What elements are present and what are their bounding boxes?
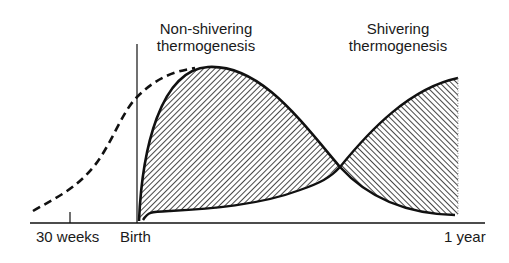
tick-label-1-year: 1 year xyxy=(444,228,486,245)
non-shivering-area xyxy=(139,67,340,221)
label-non-shivering-line2: thermogenesis xyxy=(157,37,255,54)
tick-label-birth: Birth xyxy=(120,228,151,245)
label-shivering-line1: Shivering xyxy=(367,20,430,37)
label-non-shivering-line1: Non-shivering xyxy=(160,20,253,37)
label-shivering-line2: thermogenesis xyxy=(349,37,447,54)
tick-label-30-weeks: 30 weeks xyxy=(36,228,99,245)
